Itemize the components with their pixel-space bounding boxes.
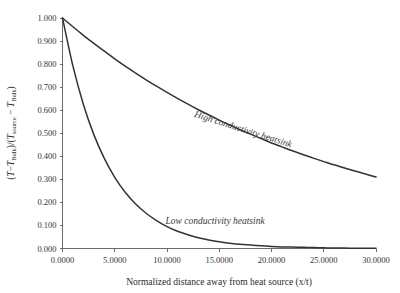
chart-background <box>0 0 400 293</box>
y-title-sub-bulk2: Bulk <box>10 89 17 102</box>
x-tick-label: 20.0000 <box>258 255 286 265</box>
y-tick-label: 0.700 <box>37 82 56 92</box>
x-tick-label: 10.0000 <box>153 255 181 265</box>
y-title-slash: )/( <box>6 139 17 148</box>
annotation-series-2: Low conductivity heatsink <box>164 216 265 226</box>
chart-svg: 0.0000.1000.2000.3000.4000.5000.6000.700… <box>0 0 400 293</box>
y-tick-label: 0.800 <box>37 59 56 69</box>
y-tick-label: 0.100 <box>37 220 56 230</box>
x-tick-label: 15.0000 <box>205 255 233 265</box>
y-tick-label: 0.000 <box>37 244 56 254</box>
x-tick-label: 5.0000 <box>103 255 126 265</box>
y-tick-label: 1.000 <box>37 13 56 23</box>
y-tick-label: 0.400 <box>37 151 56 161</box>
y-tick-label: 0.900 <box>37 36 56 46</box>
chart-figure: 0.0000.1000.2000.3000.4000.5000.6000.700… <box>0 0 400 293</box>
y-title-close: ) <box>6 86 17 89</box>
y-title-minus2: − <box>6 107 16 117</box>
y-tick-label: 0.200 <box>37 197 56 207</box>
y-tick-label: 0.500 <box>37 128 56 138</box>
x-tick-label: 25.0000 <box>310 255 338 265</box>
y-title-sub-bulk1: Bulk <box>10 147 17 160</box>
x-tick-label: 0.0000 <box>51 255 74 265</box>
x-axis-title: Normalized distance away from heat sourc… <box>126 277 312 288</box>
y-tick-label: 0.600 <box>37 105 56 115</box>
y-tick-label: 0.300 <box>37 174 56 184</box>
x-tick-label: 30.0000 <box>362 255 390 265</box>
y-title-sub-source: source <box>10 117 17 134</box>
